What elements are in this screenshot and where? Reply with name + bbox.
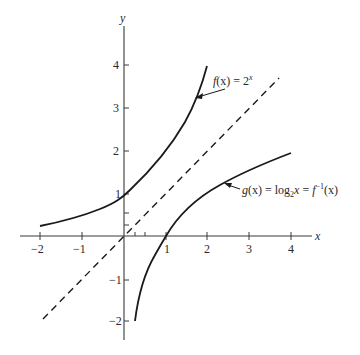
logarithm-curve: [135, 153, 291, 321]
svg-text:3: 3: [113, 101, 119, 115]
identity-line: [43, 78, 279, 319]
svg-text:g(x) = log2x = f−1(x): g(x) = log2x = f−1(x): [242, 182, 338, 199]
svg-text:f(x) = 2x: f(x) = 2x: [213, 73, 253, 88]
y-tick-labels: 4 3 2 1 −1 −2: [109, 58, 122, 328]
svg-text:−2: −2: [109, 314, 122, 328]
y-axis-label: y: [119, 11, 126, 25]
svg-text:1: 1: [164, 242, 170, 256]
x-tick-labels: −2 −1 1 2 3 4: [31, 242, 294, 256]
svg-text:2: 2: [204, 242, 210, 256]
svg-text:−2: −2: [31, 242, 44, 256]
svg-text:−1: −1: [73, 242, 86, 256]
svg-text:4: 4: [288, 242, 294, 256]
g-annotation: g(x) = log2x = f−1(x): [224, 182, 338, 199]
svg-text:2: 2: [113, 144, 119, 158]
svg-text:4: 4: [113, 58, 119, 72]
x-axis-label: x: [314, 229, 321, 243]
function-inverse-plot: x y −2 −1 1 2 3 4 4 3 2 1 −1 −2: [0, 0, 360, 355]
svg-text:−1: −1: [109, 273, 122, 287]
svg-text:3: 3: [246, 242, 252, 256]
